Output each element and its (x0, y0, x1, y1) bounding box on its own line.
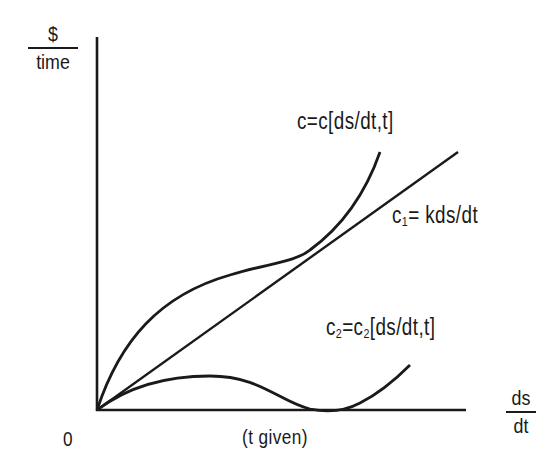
curve-c2-label-eq: =c (342, 314, 363, 340)
curve-c1-label: c1= kds/dt (392, 202, 478, 229)
t-given-note: (t given) (242, 425, 308, 449)
diagram-canvas (0, 0, 557, 476)
x-axis-label-denominator: dt (508, 414, 534, 438)
curve-c (97, 152, 380, 410)
x-axis-label-numerator: ds (508, 386, 534, 410)
curve-c2-label-c: c (326, 314, 336, 340)
fraction-bar (506, 411, 536, 413)
y-axis-label-denominator: time (32, 50, 75, 74)
curve-c2-label-args: [ds/dt,t] (370, 314, 436, 340)
curve-c1-label-c: c (392, 202, 402, 228)
y-axis-label: $ time (28, 22, 78, 74)
curve-c2 (97, 365, 410, 411)
y-axis-label-numerator: $ (32, 22, 75, 46)
origin-label: 0 (63, 427, 73, 451)
curve-c2-label: c2=c2[ds/dt,t] (326, 314, 435, 341)
fraction-bar (28, 47, 78, 49)
x-axis-label: ds dt (506, 386, 536, 438)
curve-c1-label-rest: = kds/dt (408, 202, 478, 228)
curve-c-label: c=c[ds/dt,t] (297, 108, 394, 135)
